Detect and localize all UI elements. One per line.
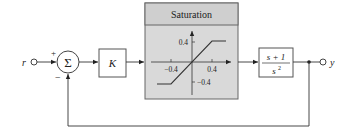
plant-block: s + 1 s 2 [259, 48, 293, 77]
input-terminal: r [22, 57, 37, 68]
plus-sign: + [51, 48, 56, 58]
summing-junction: Σ + − [51, 48, 79, 83]
minus-sign: − [55, 72, 61, 83]
plant-denominator: s [272, 66, 276, 76]
x-tick-neg: −0.4 [164, 65, 178, 74]
x-tick-pos: 0.4 [207, 65, 217, 74]
output-terminal [320, 59, 326, 65]
output-label: y [329, 57, 335, 68]
y-tick-neg: −0.4 [197, 78, 211, 87]
y-tick-pos: 0.4 [179, 38, 189, 47]
gain-block: K [99, 49, 126, 77]
saturation-block: Saturation 0.4 −0.4 −0.4 0.4 [145, 3, 238, 99]
gain-label: K [108, 57, 117, 69]
plant-denominator-exponent: 2 [278, 65, 281, 71]
input-label: r [22, 57, 26, 68]
saturation-title: Saturation [171, 9, 212, 20]
plant-numerator: s + 1 [267, 52, 286, 62]
block-diagram: r Σ + − K Saturation 0.4 −0.4 −0.4 0.4 [0, 0, 352, 139]
sigma-symbol: Σ [64, 55, 72, 70]
